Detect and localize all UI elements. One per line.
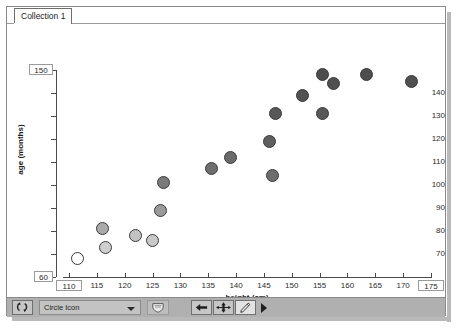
y-tick (51, 93, 56, 94)
icon-type-select[interactable]: Circle Icon (39, 300, 141, 315)
data-point[interactable] (96, 222, 109, 235)
data-point[interactable] (157, 176, 170, 189)
x-tick-label: 155 (308, 281, 332, 290)
y-tick (51, 139, 56, 140)
x-tick (264, 273, 265, 278)
y-tick (51, 231, 56, 232)
x-axis-min-field[interactable]: 110 (56, 280, 82, 291)
data-point[interactable] (224, 151, 237, 164)
y-axis-max-field[interactable]: 150 (29, 64, 53, 75)
x-tick (153, 273, 154, 278)
data-point[interactable] (71, 252, 84, 265)
window-shadow-bottom (12, 317, 451, 321)
x-tick-label: 120 (113, 281, 137, 290)
x-tick (69, 273, 70, 278)
x-tick-label: 170 (391, 281, 415, 290)
play-next-button[interactable] (261, 303, 267, 313)
x-tick (347, 273, 348, 278)
arrow-left-icon (192, 301, 211, 314)
data-point[interactable] (316, 107, 329, 120)
y-tick-label: 130 (423, 111, 445, 120)
pencil-icon (236, 301, 255, 314)
tab-strip-underline (7, 23, 445, 24)
chevron-down-icon (127, 307, 135, 311)
data-point[interactable] (146, 234, 159, 247)
x-tick-label: 130 (168, 281, 192, 290)
x-tick (292, 273, 293, 278)
y-tick-label: 90 (423, 203, 445, 212)
x-tick (236, 273, 237, 278)
tab-strip: Collection 1 (7, 7, 445, 25)
scatter-plot[interactable]: 708090100110120130140 115120125130135140… (7, 25, 445, 297)
x-tick-label: 140 (224, 281, 248, 290)
move-crosshair-icon (214, 301, 233, 314)
x-tick-label: 165 (363, 281, 387, 290)
tab-underline-gap (14, 23, 71, 24)
y-tick-label: 80 (423, 226, 445, 235)
x-tick-label: 115 (85, 281, 109, 290)
data-point[interactable] (269, 107, 282, 120)
shield-button[interactable] (147, 300, 169, 315)
y-axis-title: age (months) (16, 115, 25, 185)
icon-type-select-value: Circle Icon (44, 303, 79, 312)
application-window: Collection 1 708090100110120130140 11512… (0, 0, 459, 329)
x-axis-max-field[interactable]: 175 (418, 280, 444, 291)
data-point[interactable] (405, 75, 418, 88)
data-point[interactable] (263, 135, 276, 148)
tab-collection-1[interactable]: Collection 1 (14, 8, 72, 24)
pencil-button[interactable] (235, 300, 256, 315)
x-tick-label: 125 (141, 281, 165, 290)
data-point[interactable] (129, 229, 142, 242)
y-axis-min-field[interactable]: 60 (34, 271, 53, 282)
x-tick (180, 273, 181, 278)
data-point[interactable] (266, 169, 279, 182)
y-tick (51, 254, 56, 255)
x-tick-label: 135 (196, 281, 220, 290)
x-tick-label: 160 (335, 281, 359, 290)
data-point[interactable] (154, 204, 167, 217)
move-button[interactable] (213, 300, 234, 315)
back-button[interactable] (191, 300, 212, 315)
y-tick-label: 140 (423, 88, 445, 97)
y-tick-label: 70 (423, 249, 445, 258)
shield-icon (148, 301, 168, 314)
swap-arrows-button[interactable] (12, 300, 33, 315)
x-tick (375, 273, 376, 278)
bottom-toolbar: Circle Icon (7, 297, 445, 317)
window-shadow-right (447, 12, 451, 322)
y-tick (51, 208, 56, 209)
x-tick-label: 150 (280, 281, 304, 290)
x-tick (208, 273, 209, 278)
collection-window: Collection 1 708090100110120130140 11512… (6, 6, 446, 316)
swap-arrows-icon (13, 301, 32, 314)
data-point[interactable] (296, 89, 309, 102)
y-tick-label: 100 (423, 180, 445, 189)
x-tick (125, 273, 126, 278)
data-point[interactable] (360, 68, 373, 81)
y-axis-line (56, 70, 57, 277)
data-point[interactable] (327, 77, 340, 90)
data-point[interactable] (205, 162, 218, 175)
y-tick (51, 185, 56, 186)
y-tick-label: 110 (423, 157, 445, 166)
x-tick (97, 273, 98, 278)
x-tick (431, 273, 432, 278)
y-tick (51, 116, 56, 117)
x-tick-label: 145 (252, 281, 276, 290)
x-tick (403, 273, 404, 278)
x-tick (320, 273, 321, 278)
data-point[interactable] (99, 241, 112, 254)
y-tick-label: 120 (423, 134, 445, 143)
y-tick (51, 162, 56, 163)
